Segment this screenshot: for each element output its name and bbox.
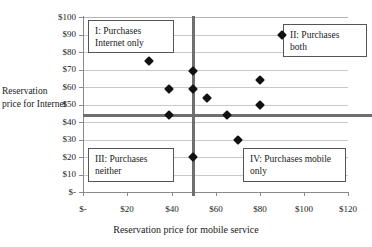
y-tick-label: $-: [42, 187, 76, 197]
quadrant-label-4: IV: Purchases mobile only: [243, 148, 346, 182]
x-tick-label: $40: [152, 204, 192, 214]
y-tick: [79, 140, 83, 141]
x-axis-title: Reservation price for mobile service: [0, 224, 372, 235]
y-tick-label: $30: [42, 134, 76, 144]
y-tick-label: $70: [42, 64, 76, 74]
y-tick-label: $80: [42, 47, 76, 57]
y-tick-label: $40: [42, 117, 76, 127]
y-tick: [79, 35, 83, 36]
quadrant-label-1: I: Purchases Internet only: [88, 20, 174, 53]
x-tick: [304, 192, 305, 196]
quadrant-label-3: III: Purchases neither: [88, 148, 174, 182]
y-tick-label: $20: [42, 152, 76, 162]
gridline-50: [83, 105, 348, 106]
y-tick: [79, 157, 83, 158]
gridline-100: [83, 17, 348, 18]
quadrant-label-2: II: Purchases both: [283, 24, 367, 57]
y-tick-label: $90: [42, 29, 76, 39]
y-tick: [79, 70, 83, 71]
scatter-chart: $100 $90 $80 $70 $60 $50 $40 $30 $20 $10…: [0, 0, 372, 247]
y-tick-label: $10: [42, 169, 76, 179]
y-tick: [79, 122, 83, 123]
x-tick: [83, 192, 84, 196]
x-tick: [260, 192, 261, 196]
y-tick-label: $100: [42, 12, 76, 22]
x-tick: [172, 192, 173, 196]
x-tick: [216, 192, 217, 196]
vertical-threshold-line: [192, 16, 195, 196]
x-tick-label: $100: [284, 204, 324, 214]
gridline-60: [83, 87, 348, 88]
gridline-70: [83, 70, 348, 71]
y-axis-line: [83, 16, 84, 193]
x-tick-label: $120: [328, 204, 368, 214]
y-axis-title: Reservation price for Internet: [2, 85, 68, 111]
gridline-30: [83, 140, 348, 141]
y-tick: [79, 52, 83, 53]
y-tick: [79, 87, 83, 88]
x-tick: [348, 192, 349, 196]
x-tick-label: $80: [240, 204, 280, 214]
gridline-40: [83, 122, 348, 123]
x-tick: [127, 192, 128, 196]
x-tick-label: $-: [63, 204, 103, 214]
x-tick-label: $20: [107, 204, 147, 214]
y-tick: [79, 175, 83, 176]
y-tick: [79, 17, 83, 18]
y-tick: [79, 105, 83, 106]
x-tick-label: $60: [196, 204, 236, 214]
